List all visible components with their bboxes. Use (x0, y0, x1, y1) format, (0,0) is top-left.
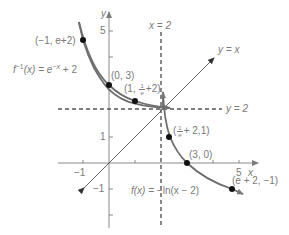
p4-den: e (177, 132, 182, 138)
point-inv-e-plus-2-1 (166, 134, 172, 140)
p3-pre: (1, (124, 83, 138, 94)
y-tick-label-5: 5 (100, 26, 106, 36)
x-axis (58, 160, 258, 163)
y-tick-label-1: 1 (100, 132, 106, 142)
point-label-3-0: (3, 0) (189, 150, 212, 160)
point-label-1-inv-e-plus-2: (1, 1e+2) (124, 83, 161, 96)
inverse-mid: (x) = e (24, 64, 53, 75)
point-3-0 (184, 160, 190, 166)
y-axis (109, 12, 113, 228)
y-tick-label-neg1: −1 (93, 184, 104, 194)
point-label-neg1-eplus2: (−1, e+2) (35, 36, 76, 46)
point-label-eplus2-neg1: (e + 2, −1) (232, 176, 278, 186)
point-eplus2-neg1 (229, 186, 235, 192)
p4-num: 1 (177, 125, 182, 132)
vertical-asymptote-label: x = 2 (149, 21, 171, 31)
p4-frac: 1e (177, 125, 182, 138)
x-tick-label-neg1: −1 (74, 168, 85, 178)
p3-num: 1 (139, 83, 144, 90)
point-label-0-3: (0, 3) (111, 71, 134, 81)
p3-den: e (139, 90, 144, 96)
y-axis-label: y (101, 9, 106, 19)
identity-line-label: y = x (218, 45, 239, 55)
p3-frac: 1e (139, 83, 144, 96)
function-prefix: f(x) = (131, 185, 157, 196)
point-label-inv-e-plus-2-1: (1e+ 2,1) (173, 125, 210, 138)
point-1-inv-e-plus-2 (132, 98, 138, 104)
horizontal-asymptote-label: y = 2 (226, 104, 248, 114)
p4-post: + 2,1) (184, 125, 210, 136)
p4-pre: ( (173, 125, 176, 136)
inverse-exp: −x (52, 63, 60, 70)
function-label: f(x) = −ln(x − 2) (131, 186, 199, 196)
point-0-3 (106, 82, 112, 88)
inverse-suffix: + 2 (60, 64, 77, 75)
function-body: −ln(x − 2) (157, 185, 199, 196)
p3-post: +2) (146, 83, 161, 94)
inverse-sup: −1 (16, 63, 24, 70)
inverse-function-label: f−1(x) = e−x + 2 (13, 65, 77, 75)
point-neg1-eplus2 (80, 37, 86, 43)
